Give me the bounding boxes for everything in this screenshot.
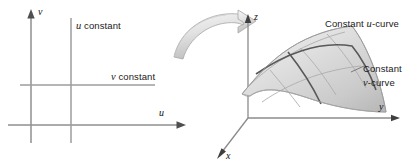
u-constant-label: u constant [76,19,121,32]
x-axis-line [222,118,248,152]
constant-u-curve-label-suffix: -curve [372,18,399,29]
constant-u-curve-label: Constant u-curve [325,17,399,30]
z-axis-label: z [254,11,258,22]
v-axis-label: v [38,6,42,17]
constant-v-curve-label: Constant v-curve [363,63,402,90]
constant-u-curve-label-prefix: Constant [325,18,367,29]
x-axis-label: x [226,150,230,161]
parametric-surface-figure: v u u constant v constant z y x Constant… [0,0,416,166]
u-axis-arrowhead [177,121,187,128]
constant-v-curve-label-line1: Constant [363,63,402,76]
v-constant-label: v constant [111,70,155,83]
arrow-body [174,14,249,59]
y-axis-label: y [379,101,383,112]
y-axis-arrowhead [391,115,400,122]
u-constant-label-text: constant [81,20,120,31]
constant-v-curve-label-suffix: -curve [368,77,395,88]
v-axis-arrowhead [27,9,34,19]
constant-v-curve-label-line2: v-curve [363,76,402,90]
x-axis-arrowhead [217,148,226,159]
v-constant-label-text: constant [116,71,155,82]
u-axis-label: u [159,107,164,118]
curved-mapping-arrow [174,10,256,59]
